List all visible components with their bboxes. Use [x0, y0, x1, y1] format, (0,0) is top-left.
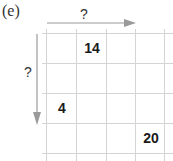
grid-line	[42, 33, 173, 34]
grid-cell-value: 20	[136, 123, 166, 153]
grid-line	[42, 63, 173, 64]
grid-cell-value: 4	[47, 93, 77, 123]
vertical-axis-question: ?	[24, 64, 32, 80]
grid-line	[42, 153, 173, 154]
grid-cell-value: 14	[77, 33, 107, 63]
vertical-arrow-icon	[33, 34, 41, 125]
horizontal-arrow-icon	[47, 19, 136, 27]
horizontal-axis-question: ?	[80, 6, 88, 22]
